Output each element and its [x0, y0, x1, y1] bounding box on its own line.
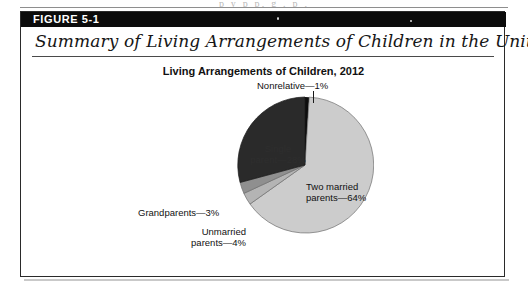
chart-title: Living Arrangements of Children, 2012	[21, 65, 506, 78]
scan-speck-icon	[277, 17, 279, 20]
pie-chart: Nonrelative—1% Two married parents—64% S…	[21, 80, 506, 276]
figure-title: Summary of Living Arrangements of Childr…	[35, 30, 495, 52]
leader-line-nonrelative	[313, 91, 314, 103]
figure-label: FIGURE 5-1	[33, 13, 100, 26]
pie-label-two-married-parents: Two married parents—64%	[306, 181, 366, 203]
scan-speck-icon	[410, 20, 412, 22]
pie-label-nonrelative: Nonrelative—1%	[257, 80, 328, 91]
pie-label-unmarried-parents: Unmarried parents—4%	[140, 226, 246, 248]
pie-label-single-parent-line2: parent—28%	[236, 154, 320, 165]
figure-panel-shadow	[24, 279, 509, 281]
pie-label-single-parent-line1: Single	[236, 143, 320, 154]
pie-label-two-married-parents-line1: Two married	[306, 181, 366, 192]
figure-title-underline	[32, 56, 494, 57]
page-divider-rule	[20, 7, 508, 8]
pie-label-unmarried-parents-line2: parents—4%	[140, 237, 246, 248]
pie-label-grandparents: Grandparents—3%	[138, 207, 219, 218]
pie-label-single-parent: Single parent—28%	[236, 143, 320, 165]
pie-label-unmarried-parents-line1: Unmarried	[140, 226, 246, 237]
page-body-text-fragment: p y p p, g . p ,	[0, 0, 528, 7]
figure-header-bar: FIGURE 5-1	[21, 12, 506, 27]
pie-svg	[236, 96, 374, 234]
pie-graphic	[236, 96, 374, 234]
figure-panel: FIGURE 5-1 Summary of Living Arrangement…	[20, 11, 505, 277]
pie-label-two-married-parents-line2: parents—64%	[306, 192, 366, 203]
